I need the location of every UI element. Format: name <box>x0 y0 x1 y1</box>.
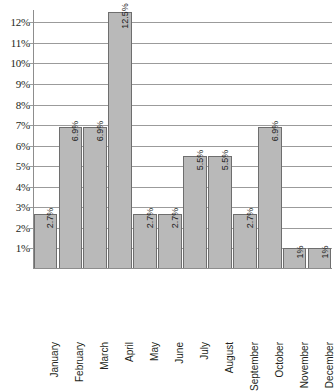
bar[interactable]: 6.9% <box>83 127 107 269</box>
y-axis-tick-label: 4% <box>16 181 30 193</box>
plot-area: 2.7%6.9%6.9%12.5%2.7%2.7%5.5%5.5%2.7%6.9… <box>33 10 332 269</box>
bar[interactable]: 6.9% <box>59 127 83 269</box>
bar-value-label: 6.9% <box>95 121 105 142</box>
x-axis-tick-label: January <box>49 342 60 378</box>
x-axis-tick-label: May <box>149 342 160 361</box>
y-axis-tick-label: 7% <box>16 119 30 131</box>
x-axis-tick-label: February <box>74 342 85 382</box>
bar-slot: 6.9% <box>83 10 107 269</box>
bar-slot: 1% <box>283 10 307 269</box>
bar-value-label: 2.7% <box>170 207 180 228</box>
bar-slot: 2.7% <box>158 10 182 269</box>
y-axis-tick-label: 5% <box>16 160 30 172</box>
bar[interactable]: 2.7% <box>158 214 182 270</box>
bar-slot: 6.9% <box>258 10 282 269</box>
bar-value-label: 5.5% <box>195 150 205 171</box>
x-axis-tick-label: July <box>199 342 210 360</box>
bar-slot: 2.7% <box>133 10 157 269</box>
bar-value-label: 1% <box>295 246 305 259</box>
bar-slot: 2.7% <box>34 10 58 269</box>
bar-value-label: 2.7% <box>145 207 155 228</box>
x-axis-tick-label: December <box>324 342 335 388</box>
x-axis-tick-label: August <box>224 342 235 373</box>
bar[interactable]: 5.5% <box>183 156 207 269</box>
bar-value-label: 1% <box>320 246 330 259</box>
bar-slot: 2.7% <box>233 10 257 269</box>
bar-slot: 5.5% <box>208 10 232 269</box>
x-axis-labels: JanuaryFebruaryMarchAprilMayJuneJulyAugu… <box>33 272 332 344</box>
x-axis-line <box>33 268 332 269</box>
y-axis-tick-label: 1% <box>16 242 30 254</box>
bar-value-label: 2.7% <box>245 207 255 228</box>
bar-value-label: 6.9% <box>270 121 280 142</box>
x-axis-tick-label: November <box>299 342 310 388</box>
y-axis-tick-label: 12% <box>10 16 30 28</box>
bar[interactable]: 2.7% <box>34 214 58 270</box>
x-axis-tick-label: October <box>274 342 285 378</box>
y-axis-tick-label: 2% <box>16 222 30 234</box>
bar[interactable]: 12.5% <box>108 12 132 269</box>
bar-value-label: 2.7% <box>45 207 55 228</box>
bar[interactable]: 1% <box>283 248 307 269</box>
y-axis-tick-label: 11% <box>11 37 30 49</box>
y-axis-tick-label: 10% <box>10 57 30 69</box>
bar-slot: 12.5% <box>108 10 132 269</box>
bar-slot: 5.5% <box>183 10 207 269</box>
y-axis-tick-label: 6% <box>16 140 30 152</box>
bar-slot: 1% <box>308 10 332 269</box>
x-axis-tick-label: June <box>174 342 185 364</box>
bar[interactable]: 5.5% <box>208 156 232 269</box>
x-axis-tick-label: September <box>249 342 260 391</box>
bar-value-label: 5.5% <box>220 150 230 171</box>
y-axis-tick-label: 9% <box>16 78 30 90</box>
bar-series: 2.7%6.9%6.9%12.5%2.7%2.7%5.5%5.5%2.7%6.9… <box>33 10 332 269</box>
y-axis: 1%2%3%4%5%6%7%8%9%10%11%12% <box>0 0 30 344</box>
bar-value-label: 6.9% <box>70 121 80 142</box>
bar-slot: 6.9% <box>59 10 83 269</box>
bar[interactable]: 2.7% <box>133 214 157 270</box>
x-axis-tick-label: March <box>99 342 110 370</box>
y-axis-tick-label: 3% <box>16 201 30 213</box>
bar[interactable]: 6.9% <box>258 127 282 269</box>
bar[interactable]: 1% <box>308 248 332 269</box>
y-axis-tick-label: 8% <box>16 99 30 111</box>
bar[interactable]: 2.7% <box>233 214 257 270</box>
bar-value-label: 12.5% <box>120 3 130 29</box>
x-axis-tick-label: April <box>124 342 135 362</box>
